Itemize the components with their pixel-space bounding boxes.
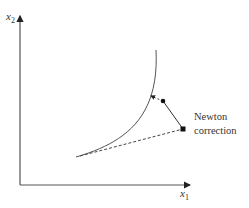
x-axis-label: x1 [180,187,189,202]
diagram-graphic [0,0,249,208]
diagram-canvas: x2 x1 Newton correction [0,0,249,208]
predicted-point [181,127,186,132]
corrected-point [161,99,166,104]
y-axis-label: x2 [6,10,15,25]
newton-correction-line [163,101,183,129]
annotation-line-1: Newton [194,110,237,124]
annotation-line-2: correction [194,124,237,138]
newton-correction-label: Newton correction [194,110,237,138]
solution-curve [76,50,156,157]
predictor-step-line [80,129,183,156]
